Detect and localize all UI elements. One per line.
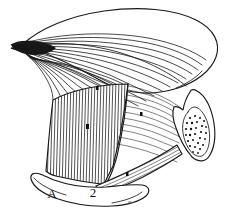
figure-plate: A 2 sc. anatomical specimen: fan-shaped …	[0, 0, 230, 219]
panel-label-a: A	[47, 186, 57, 201]
callout-label-two: 2	[90, 185, 97, 200]
engraver-signature: sc.	[128, 199, 133, 204]
anatomical-line-drawing: A 2 sc.	[0, 0, 230, 219]
striated-muscle-block	[44, 80, 131, 190]
callout-marker-muscle	[86, 124, 89, 129]
